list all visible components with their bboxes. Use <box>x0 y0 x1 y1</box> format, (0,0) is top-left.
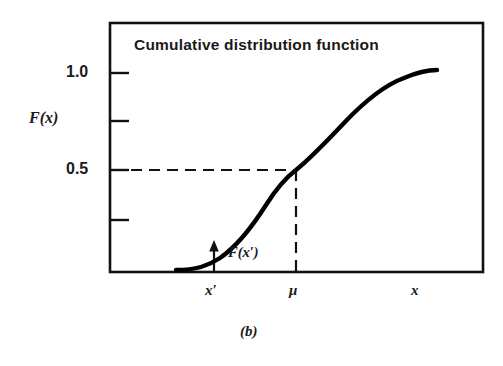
chart-title: Cumulative distribution function <box>134 37 379 53</box>
x-tick-label-x-prime: x′ <box>205 283 217 298</box>
y-tick-label-1-0: 1.0 <box>66 64 88 80</box>
x-tick-label-mu: μ <box>289 283 297 298</box>
figure-caption: (b) <box>240 324 258 339</box>
y-axis-title: F(x) <box>29 110 58 126</box>
annotation-label-f-x-prime: F(x′) <box>228 245 259 260</box>
y-tick-label-0-5: 0.5 <box>66 161 88 177</box>
figure-canvas <box>0 0 503 366</box>
x-axis-title: x <box>411 283 419 298</box>
figure-cdf: Cumulative distribution function 1.0 0.5… <box>0 0 503 366</box>
